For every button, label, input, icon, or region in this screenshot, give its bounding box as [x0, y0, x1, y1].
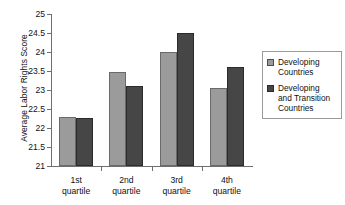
x-axis-category-label: 1stquartile [62, 175, 90, 197]
bar [109, 72, 126, 166]
bar-chart: Average Labor Rights Score 2121.52222.52… [0, 0, 345, 205]
x-axis-category-label: 4thquartile [213, 175, 241, 197]
y-axis-tick-label: 22 [35, 123, 45, 133]
x-axis-label-line: quartile [112, 186, 140, 196]
bar [76, 118, 93, 166]
x-axis-label-line: 4th [221, 175, 233, 185]
x-axis-tick [152, 166, 153, 171]
y-axis-tick [47, 52, 52, 53]
y-axis-tick-label: 24 [35, 47, 45, 57]
y-axis-tick-label: 25 [35, 9, 45, 19]
y-axis-tick [47, 33, 52, 34]
bar [160, 52, 177, 166]
legend-label-developing-countries: DevelopingCountries [278, 57, 320, 77]
y-axis-tick-label: 23.5 [28, 66, 45, 76]
x-axis-label-line: 2nd [119, 175, 133, 185]
bar [177, 33, 194, 166]
legend-label-developing-and-transition-countries: Developingand TransitionCountries [278, 83, 330, 113]
legend-item-developing-countries: DevelopingCountries [267, 57, 338, 77]
y-axis-tick [47, 109, 52, 110]
x-axis-label-line: quartile [62, 186, 90, 196]
x-axis-label-line: quartile [213, 186, 241, 196]
bar [210, 88, 227, 166]
x-axis-tick [202, 166, 203, 171]
y-axis-tick [47, 147, 52, 148]
bar [227, 67, 244, 166]
legend-item-developing-and-transition-countries: Developingand TransitionCountries [267, 83, 338, 113]
y-axis-tick-label: 24.5 [28, 28, 45, 38]
y-axis-tick [47, 166, 52, 167]
x-axis-label-line: 1st [70, 175, 81, 185]
legend: DevelopingCountries Developingand Transi… [262, 51, 342, 119]
y-axis-tick [47, 71, 52, 72]
x-axis-category-label: 2ndquartile [112, 175, 140, 197]
y-axis-tick-label: 23 [35, 85, 45, 95]
legend-swatch-icon-light [267, 59, 274, 66]
bar [59, 117, 76, 166]
y-axis-tick [47, 90, 52, 91]
y-axis-tick [47, 14, 52, 15]
x-axis-tick [101, 166, 102, 171]
y-axis-tick-label: 21 [35, 161, 45, 171]
legend-swatch-icon-dark [267, 85, 274, 92]
x-axis-label-line: quartile [163, 186, 191, 196]
y-axis-tick-label: 22.5 [28, 104, 45, 114]
plot-area: 2121.52222.52323.52424.525 [51, 14, 252, 166]
y-axis-tick-label: 21.5 [28, 142, 45, 152]
bar [126, 86, 143, 166]
x-axis-category-label: 3rdquartile [163, 175, 191, 197]
x-axis-label-line: 3rd [170, 175, 182, 185]
y-axis-tick [47, 128, 52, 129]
